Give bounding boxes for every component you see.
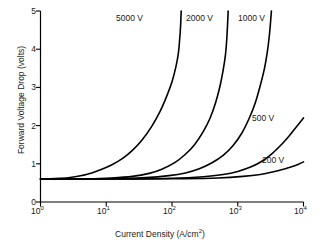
x-tick-label: 103 <box>229 205 242 216</box>
curve-label-2000-v: 2000 V <box>186 13 213 23</box>
y-axis-title: Forward Voltage Drop (volts) <box>16 25 26 175</box>
curve-label-5000-v: 5000 V <box>116 13 143 23</box>
x-tick-label: 101 <box>97 205 110 216</box>
curve-label-500-v: 500 V <box>252 113 274 123</box>
y-axis-ticks <box>36 11 41 202</box>
curve-label-200-v: 200 V <box>262 155 284 165</box>
x-tick-label: 104 <box>294 205 307 216</box>
x-axis-title: Current Density (A/cm2) <box>0 228 320 239</box>
data-curves <box>41 11 304 179</box>
x-tick-label: 100 <box>31 205 44 216</box>
chart-figure: 5 4 3 2 1 0 100 101 102 103 104 Forward … <box>0 0 320 249</box>
curve-500-v <box>41 118 304 179</box>
curve-1000-v <box>41 11 272 179</box>
curve-5000-v <box>41 11 182 179</box>
x-tick-label: 102 <box>163 205 176 216</box>
plot-area <box>0 0 320 249</box>
y-tick-label: 5 <box>22 6 36 16</box>
curve-label-1000-v: 1000 V <box>238 13 265 23</box>
curve-2000-v <box>41 11 229 179</box>
